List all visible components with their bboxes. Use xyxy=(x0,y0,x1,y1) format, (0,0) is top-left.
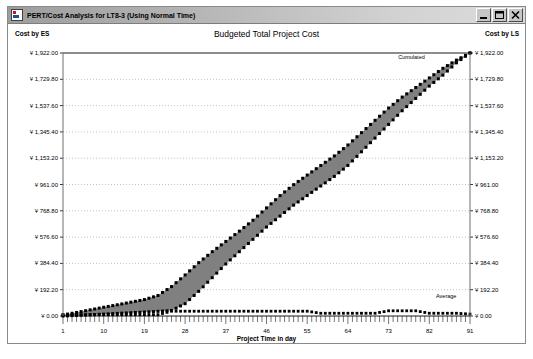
y-tick-label-right: ¥ 0.00 xyxy=(475,313,492,319)
y-tick-label-left: ¥ 1,537.60 xyxy=(30,103,59,109)
y-tick-label-right: ¥ 961.00 xyxy=(475,182,499,188)
y-tick-label-left: ¥ 192.20 xyxy=(35,287,59,293)
x-tick-label: 73 xyxy=(385,328,392,334)
x-tick-label: 64 xyxy=(345,328,352,334)
pert-cost-window: PERT/Cost Analysis for LT8-3 (Using Norm… xyxy=(7,6,526,344)
chart-canvas-area: Budgeted Total Project Cost Cost by ES C… xyxy=(8,24,525,343)
x-tick-label: 55 xyxy=(304,328,311,334)
annotation-average: Average xyxy=(436,293,456,299)
y-tick-label-right: ¥ 1,537.60 xyxy=(475,103,504,109)
right-y-tick-labels: ¥ 0.00¥ 192.20¥ 384.40¥ 576.60¥ 768.80¥ … xyxy=(475,50,504,319)
x-tick-label: 46 xyxy=(263,328,270,334)
y-tick-label-left: ¥ 961.00 xyxy=(35,182,59,188)
y-tick-label-right: ¥ 768.80 xyxy=(475,208,499,214)
y-tick-label-right: ¥ 1,345.40 xyxy=(475,129,504,135)
y-tick-label-right: ¥ 384.40 xyxy=(475,260,499,266)
window-title: PERT/Cost Analysis for LT8-3 (Using Norm… xyxy=(27,12,195,19)
x-tick-label: 82 xyxy=(426,328,433,334)
y-tick-label-right: ¥ 1,153.20 xyxy=(475,155,504,161)
window-buttons xyxy=(476,8,523,22)
gridlines-group xyxy=(63,79,470,289)
x-tick-label: 37 xyxy=(222,328,229,334)
y-tick-label-right: ¥ 192.20 xyxy=(475,287,499,293)
y-tick-label-right: ¥ 1,729.80 xyxy=(475,76,504,82)
maximize-button[interactable] xyxy=(492,8,507,22)
y-tick-label-left: ¥ 1,345.40 xyxy=(30,129,59,135)
y-tick-label-right: ¥ 1,922.00 xyxy=(475,50,504,56)
annotation-cumulated: Cumulated xyxy=(398,54,425,60)
x-tick-label: 10 xyxy=(100,328,107,334)
left-y-tick-labels: ¥ 0.00¥ 192.20¥ 384.40¥ 576.60¥ 768.80¥ … xyxy=(30,50,59,319)
y-tick-label-left: ¥ 0.00 xyxy=(41,313,58,319)
x-tick-label: 1 xyxy=(61,328,65,334)
x-tick-label: 19 xyxy=(141,328,148,334)
x-tick-labels: 110192837465564738291 xyxy=(61,328,474,334)
app-chart-icon xyxy=(11,9,23,21)
plot-annotations: CumulatedAverage xyxy=(398,54,456,299)
y-tick-label-left: ¥ 1,729.80 xyxy=(30,76,59,82)
y-tick-label-right: ¥ 576.60 xyxy=(475,234,499,240)
series-cumulated-cost-by-es xyxy=(62,52,472,317)
y-tick-label-left: ¥ 384.40 xyxy=(35,260,59,266)
minimize-button[interactable] xyxy=(476,8,491,22)
y-tick-label-left: ¥ 576.60 xyxy=(35,234,59,240)
window-titlebar[interactable]: PERT/Cost Analysis for LT8-3 (Using Norm… xyxy=(8,7,525,24)
pert-cost-plot: ¥ 0.00¥ 192.20¥ 384.40¥ 576.60¥ 768.80¥ … xyxy=(8,24,525,343)
x-tick-label: 28 xyxy=(182,328,189,334)
y-tick-label-left: ¥ 768.80 xyxy=(35,208,59,214)
y-tick-label-left: ¥ 1,153.20 xyxy=(30,155,59,161)
y-tick-label-left: ¥ 1,922.00 xyxy=(30,50,59,56)
close-button[interactable] xyxy=(508,8,523,22)
x-tick-label: 91 xyxy=(467,328,474,334)
